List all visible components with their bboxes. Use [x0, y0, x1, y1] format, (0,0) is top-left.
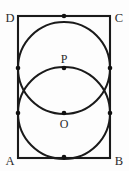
rectangle-outline: [18, 16, 110, 158]
dot-center-P: [62, 66, 67, 71]
vertex-label-c: C: [115, 11, 123, 25]
vertex-label-b: B: [115, 154, 123, 168]
geometry-figure-container: D C A B P O: [0, 0, 129, 171]
dot-right-upper: [108, 66, 113, 71]
dot-center-O: [62, 111, 67, 116]
dot-right-lower: [108, 111, 113, 116]
dot-left-lower: [16, 111, 21, 116]
circles-group: [18, 22, 110, 159]
center-labels-group: P O: [60, 52, 69, 131]
dot-bottom-tangent: [62, 155, 67, 160]
center-label-p: P: [61, 52, 68, 66]
center-label-o: O: [60, 117, 69, 131]
vertex-label-d: D: [5, 11, 14, 25]
dot-top-tangent: [62, 14, 67, 19]
geometry-figure-svg: D C A B P O: [0, 0, 129, 171]
vertex-label-a: A: [5, 154, 14, 168]
dot-left-upper: [16, 66, 21, 71]
rectangle-abcd: [18, 16, 110, 158]
